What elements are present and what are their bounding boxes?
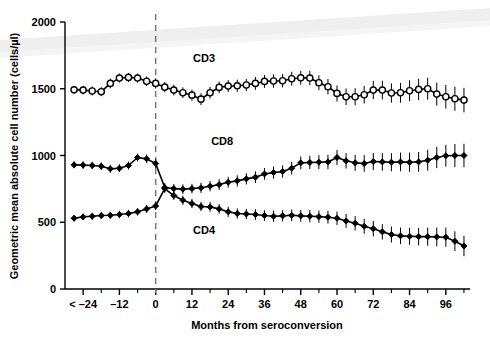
data-point [125,74,131,80]
data-point [144,78,150,84]
x-tick-label: 48 [295,298,307,310]
data-point [162,84,168,90]
data-point [334,90,340,96]
y-tick-label: 0 [50,283,56,295]
data-point [406,88,412,94]
data-point [189,92,195,98]
x-tick-label: –12 [110,298,128,310]
x-tick-label: 0 [153,298,159,310]
x-tick-label: 72 [367,298,379,310]
data-point [434,91,440,97]
data-point [107,80,113,86]
x-tick-label: 60 [331,298,343,310]
data-point [416,86,422,92]
y-axis-title: Geometric mean absolute cell number (cel… [8,32,20,279]
data-point [289,76,295,82]
data-point [198,96,204,102]
data-point [71,87,77,93]
data-point [452,96,458,102]
y-tick-label: 1000 [32,150,56,162]
x-tick-label: 84 [403,298,416,310]
data-point [216,84,222,90]
series-label-cd3: CD3 [193,52,215,64]
data-point [225,83,231,89]
data-point [261,78,267,84]
data-point [116,75,122,81]
data-point [316,80,322,86]
data-point [252,80,258,86]
y-tick-label: 500 [38,216,56,228]
data-point [207,90,213,96]
data-point [98,89,104,95]
cell-count-line-chart: 0500100015002000 < –24–12012243648607284… [0,0,490,345]
x-tick-label: 24 [222,298,235,310]
data-point [370,87,376,93]
data-point [361,92,367,98]
data-point [388,90,394,96]
data-point [153,80,159,86]
data-point [352,94,358,100]
data-point [425,86,431,92]
data-point [234,83,240,89]
x-tick-label: < –24 [69,298,98,310]
data-point [325,84,331,90]
y-tick-label: 2000 [32,16,56,28]
data-point [171,87,177,93]
data-point [270,78,276,84]
data-point [379,87,385,93]
x-tick-label: 12 [186,298,198,310]
data-point [280,78,286,84]
data-point [180,90,186,96]
series-label-cd8: CD8 [211,135,233,147]
data-point [134,75,140,81]
data-point [307,75,313,81]
series-label-cd4: CD4 [193,224,216,236]
y-tick-label: 1500 [32,83,56,95]
x-tick-label: 36 [258,298,270,310]
data-point [89,88,95,94]
data-point [343,94,349,100]
data-point [397,90,403,96]
data-point [80,87,86,93]
data-point [243,82,249,88]
x-tick-label: 96 [440,298,452,310]
chart-figure: 0500100015002000 < –24–12012243648607284… [0,0,490,345]
data-point [443,94,449,100]
x-axis-title: Months from seroconversion [191,319,343,331]
data-point [298,75,304,81]
data-point [461,97,467,103]
